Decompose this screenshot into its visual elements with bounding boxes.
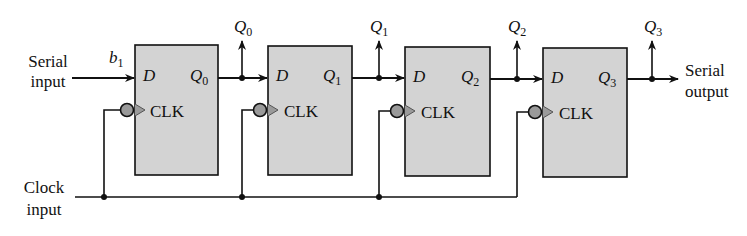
serial-input-label-line2: input <box>31 72 66 91</box>
d-input-label: D <box>550 68 564 87</box>
clk-label: CLK <box>421 103 456 122</box>
clock-wire <box>517 112 528 197</box>
q2-tap-label: Q2 <box>508 17 526 39</box>
inversion-bubble-icon <box>254 104 267 117</box>
clk-label: CLK <box>559 104 594 123</box>
clk-label: CLK <box>150 102 185 121</box>
serial-output-label-line1: Serial <box>685 61 725 80</box>
first-bit-label: b1 <box>109 48 124 70</box>
shift-register-diagram: Serial input b1 Clock input D Q0 CLK Q0 … <box>0 0 747 236</box>
serial-input-label-line1: Serial <box>28 52 68 71</box>
clock-input-label-line1: Clock <box>24 178 65 197</box>
flipflop-2: D Q2 CLK <box>379 47 490 197</box>
flipflop-3: D Q3 CLK <box>517 48 627 197</box>
inversion-bubble-icon <box>121 104 134 117</box>
q3-tap-label: Q3 <box>644 17 662 39</box>
q1-tap-label: Q1 <box>370 17 388 39</box>
d-input-label: D <box>412 67 426 86</box>
clock-wire <box>242 110 253 197</box>
d-input-label: D <box>142 66 156 85</box>
clock-wire <box>104 110 120 197</box>
inversion-bubble-icon <box>529 106 542 119</box>
clk-label: CLK <box>284 102 319 121</box>
clock-wire <box>379 111 390 197</box>
clock-input-label-line2: input <box>27 200 62 219</box>
d-input-label: D <box>275 66 289 85</box>
serial-output-label-line2: output <box>685 82 729 101</box>
flipflop-1: D Q1 CLK <box>242 46 352 197</box>
q0-tap-label: Q0 <box>234 17 252 39</box>
inversion-bubble-icon <box>391 105 404 118</box>
